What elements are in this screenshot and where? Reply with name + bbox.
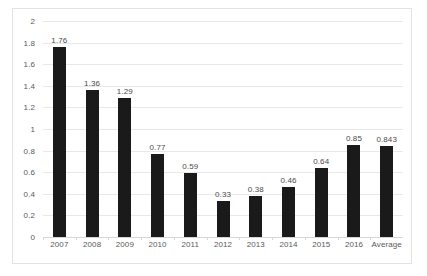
chart-container: 21.81.61.41.210.80.60.40.20 1.761.361.29… — [12, 8, 412, 264]
x-axis-category-label: 2009 — [108, 240, 141, 256]
y-axis-tick-label: 1.6 — [24, 60, 35, 69]
x-axis-category-label: 2008 — [76, 240, 109, 256]
bar-slot: 0.33 — [207, 21, 240, 237]
bar-slot: 1.76 — [43, 21, 76, 237]
y-axis-tick-label: 2 — [30, 17, 35, 26]
bar[interactable]: 0.64 — [315, 168, 328, 237]
bar-slot: 0.85 — [338, 21, 371, 237]
y-axis-tick-label: 0.4 — [24, 189, 35, 198]
plot-area: 21.81.61.41.210.80.60.40.20 1.761.361.29… — [13, 9, 411, 263]
bar-value-label: 0.59 — [182, 162, 198, 171]
y-axis-tick-label: 0.2 — [24, 211, 35, 220]
bar-value-label: 1.76 — [51, 36, 67, 45]
bar-value-label: 0.64 — [313, 157, 329, 166]
bar-slot: 0.64 — [305, 21, 338, 237]
bar-value-label: 0.46 — [281, 176, 297, 185]
bar[interactable]: 0.77 — [151, 154, 164, 237]
bar-slot: 0.77 — [141, 21, 174, 237]
bar[interactable]: 0.59 — [184, 173, 197, 237]
bar-value-label: 0.843 — [376, 135, 397, 144]
bar[interactable]: 0.85 — [347, 145, 360, 237]
y-axis-tick-label: 1.4 — [24, 81, 35, 90]
x-axis-category-label: 2010 — [141, 240, 174, 256]
x-axis-category-label: 2013 — [239, 240, 272, 256]
y-axis-tick-label: 0 — [30, 233, 35, 242]
x-axis-category-label: 2007 — [43, 240, 76, 256]
bar-value-label: 1.29 — [117, 87, 133, 96]
y-axis-tick-label: 0.8 — [24, 146, 35, 155]
x-axis-category-label: 2015 — [305, 240, 338, 256]
bar-slot: 0.38 — [239, 21, 272, 237]
x-axis-category-label: Average — [370, 240, 403, 256]
y-axis-tick-label: 1.2 — [24, 103, 35, 112]
bar[interactable]: 1.36 — [86, 90, 99, 237]
bar[interactable]: 0.843 — [380, 146, 393, 237]
bar[interactable]: 1.76 — [53, 47, 66, 237]
bar[interactable]: 0.46 — [282, 187, 295, 237]
bar-slot: 0.46 — [272, 21, 305, 237]
bar-slot: 0.59 — [174, 21, 207, 237]
y-axis: 21.81.61.41.210.80.60.40.20 — [13, 21, 39, 237]
bar-slot: 1.29 — [108, 21, 141, 237]
x-axis-category-label: 2012 — [207, 240, 240, 256]
y-axis-tick-label: 1.8 — [24, 38, 35, 47]
bar[interactable]: 1.29 — [118, 98, 131, 237]
bar-value-label: 0.77 — [150, 143, 166, 152]
bar-slot: 0.843 — [370, 21, 403, 237]
bar-value-label: 0.85 — [346, 134, 362, 143]
bar-value-label: 0.38 — [248, 185, 264, 194]
bar[interactable]: 0.38 — [249, 196, 262, 237]
bar-slot: 1.36 — [76, 21, 109, 237]
bar[interactable]: 0.33 — [217, 201, 230, 237]
x-axis-category-label: 2014 — [272, 240, 305, 256]
bar-series: 1.761.361.290.770.590.330.380.460.640.85… — [43, 21, 403, 237]
x-axis: 2007200820092010201120122013201420152016… — [43, 240, 403, 256]
y-axis-tick-label: 0.6 — [24, 168, 35, 177]
y-axis-tick-label: 1 — [30, 125, 35, 134]
x-axis-category-label: 2011 — [174, 240, 207, 256]
bar-value-label: 0.33 — [215, 190, 231, 199]
x-axis-category-label: 2016 — [338, 240, 371, 256]
bar-value-label: 1.36 — [84, 79, 100, 88]
